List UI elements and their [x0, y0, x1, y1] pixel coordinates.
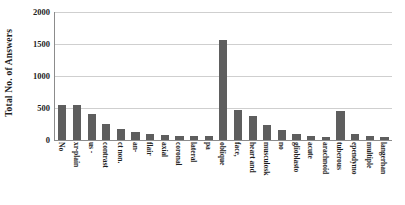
bar-slot[interactable]: [304, 12, 319, 140]
x-axis-tick-slot: langerhan: [376, 142, 391, 205]
x-axis-tick-slot: tuberous: [332, 142, 347, 205]
x-axis-tick-label: langerhan: [379, 142, 388, 174]
bar-slot[interactable]: [187, 12, 202, 140]
x-axis-tick-label: pa: [203, 142, 212, 150]
x-axis-tick-slot: face,: [230, 142, 245, 205]
x-axis-tick-label: No: [57, 142, 66, 151]
bar-slot[interactable]: [143, 12, 158, 140]
bar-slot[interactable]: [348, 12, 363, 140]
bar[interactable]: [73, 105, 81, 140]
x-axis-tick-label: tuberous: [335, 142, 344, 170]
bar-slot[interactable]: [319, 12, 334, 140]
x-axis-tick-label: axial: [159, 142, 168, 157]
bar[interactable]: [102, 124, 110, 140]
bar-slot[interactable]: [245, 12, 260, 140]
bar-slot[interactable]: [172, 12, 187, 140]
bar[interactable]: [161, 135, 169, 140]
bar-slot[interactable]: [289, 12, 304, 140]
bar[interactable]: [351, 134, 359, 140]
x-axis-tick-slot: us -: [83, 142, 98, 205]
bar-slot[interactable]: [55, 12, 70, 140]
x-axis-tick-label: oblique: [218, 142, 227, 165]
x-axis-tick-label: heart and: [247, 142, 256, 173]
y-axis-tick-label: 2000: [33, 7, 50, 17]
x-axis-tick-label: lateral: [189, 142, 198, 162]
bar-slot[interactable]: [377, 12, 392, 140]
bar[interactable]: [117, 129, 125, 140]
bar[interactable]: [131, 132, 139, 140]
y-axis-tick-label: 1500: [33, 39, 50, 49]
x-axis-tick-label: coronal: [174, 142, 183, 166]
x-axis-tick-slot: lateral: [186, 142, 201, 205]
x-axis-tick-label: musculosk: [262, 142, 271, 175]
x-axis-tick-label: glioblasto: [291, 142, 300, 172]
bar[interactable]: [249, 116, 257, 140]
bar-slot[interactable]: [201, 12, 216, 140]
bar[interactable]: [219, 40, 227, 140]
x-axis-tick-label: ependymo: [350, 142, 359, 175]
bar[interactable]: [175, 136, 183, 140]
bar[interactable]: [58, 105, 66, 140]
bar[interactable]: [88, 114, 96, 140]
bar-slot[interactable]: [333, 12, 348, 140]
x-axis-tick-slot: an-: [127, 142, 142, 205]
bar[interactable]: [234, 110, 242, 140]
bar[interactable]: [278, 130, 286, 140]
bar-slot[interactable]: [128, 12, 143, 140]
bar-slot[interactable]: [99, 12, 114, 140]
x-axis-tick-slot: oblique: [215, 142, 230, 205]
x-axis-tick-slot: xr-plain: [69, 142, 84, 205]
bar[interactable]: [190, 136, 198, 140]
bar-slot[interactable]: [231, 12, 246, 140]
bar-slot[interactable]: [362, 12, 377, 140]
bar-slot[interactable]: [260, 12, 275, 140]
x-axis-tick-label: contrast: [101, 142, 110, 168]
x-axis-tick-label: flair: [145, 142, 154, 155]
x-axis-tick-slot: ependymo: [347, 142, 362, 205]
bar-slot[interactable]: [70, 12, 85, 140]
x-axis-tick-label: arachnoid: [320, 142, 329, 174]
bar-slot[interactable]: [216, 12, 231, 140]
y-axis-tick-label: 1000: [33, 71, 50, 81]
bar-slot[interactable]: [157, 12, 172, 140]
x-axis-tick-label: us -: [86, 142, 95, 153]
bar[interactable]: [322, 137, 330, 140]
x-axis-tick-labels: Noxr-plainus -contrastct non.an-flairaxi…: [54, 142, 391, 205]
bar[interactable]: [336, 111, 344, 140]
y-axis-tick-labels: 0500100015002000: [16, 0, 54, 145]
bar[interactable]: [380, 137, 388, 140]
bar-series: [55, 12, 392, 140]
bar[interactable]: [292, 134, 300, 140]
x-axis-tick-slot: axial: [156, 142, 171, 205]
x-axis-tick-slot: musculosk: [259, 142, 274, 205]
x-axis-tick-slot: contrast: [98, 142, 113, 205]
bar-slot[interactable]: [84, 12, 99, 140]
bar-chart-figure: Total No. of Answers 0500100015002000 No…: [0, 0, 405, 205]
bar[interactable]: [146, 134, 154, 140]
x-axis-tick-slot: arachnoid: [318, 142, 333, 205]
bar-slot[interactable]: [275, 12, 290, 140]
bar[interactable]: [366, 136, 374, 140]
plot-area: [54, 12, 392, 141]
x-axis-tick-slot: ct non.: [113, 142, 128, 205]
x-axis-tick-label: no: [276, 142, 285, 150]
bar[interactable]: [205, 136, 213, 140]
bar-slot[interactable]: [114, 12, 129, 140]
y-axis-tick-label: 500: [37, 103, 50, 113]
bar[interactable]: [263, 125, 271, 140]
x-axis-tick-label: xr-plain: [71, 142, 80, 167]
x-axis-tick-label: acute: [306, 142, 315, 159]
x-axis-tick-slot: multiple: [361, 142, 376, 205]
x-axis-tick-label: an-: [130, 142, 139, 152]
x-axis-tick-slot: glioblasto: [288, 142, 303, 205]
x-axis-tick-slot: No: [54, 142, 69, 205]
x-axis-tick-slot: heart and: [244, 142, 259, 205]
x-axis-tick-slot: no: [274, 142, 289, 205]
x-axis-tick-label: ct non.: [115, 142, 124, 163]
x-axis-tick-slot: pa: [200, 142, 215, 205]
y-axis-title: Total No. of Answers: [4, 28, 14, 116]
x-axis-tick-label: multiple: [364, 142, 373, 168]
bar[interactable]: [307, 136, 315, 140]
y-axis-tick-label: 0: [46, 135, 50, 145]
x-axis-tick-slot: flair: [142, 142, 157, 205]
